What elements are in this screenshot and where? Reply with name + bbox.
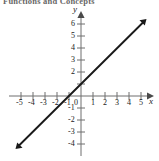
x-tick-label-5: 5 — [139, 99, 143, 107]
figure-container: Functions and Concepts — [0, 0, 159, 161]
x-tick-label-4: 4 — [127, 99, 131, 107]
y-tick-label-2: 2 — [71, 68, 75, 76]
x-tick-label--3: -3 — [40, 99, 47, 107]
y-tick-label-6: 6 — [71, 20, 75, 28]
y-tick-label-3: 3 — [71, 56, 75, 64]
y-tick-label-4: 4 — [71, 44, 75, 52]
y-axis-label: y — [73, 5, 77, 13]
x-tick-label--5: -5 — [16, 99, 23, 107]
x-tick-label-3: 3 — [115, 99, 119, 107]
y-tick-label--3: -3 — [68, 128, 75, 136]
y-tick-label-5: 5 — [71, 32, 75, 40]
x-tick-label--4: -4 — [28, 99, 35, 107]
x-tick-label--2: -2 — [52, 99, 59, 107]
y-tick-label--1: -1 — [68, 104, 75, 112]
x-axis-label: x — [149, 97, 153, 105]
x-tick-label-2: 2 — [103, 99, 107, 107]
x-tick-label-1: 1 — [91, 99, 95, 107]
y-tick-label--4: -4 — [68, 140, 75, 148]
y-tick-label--2: -2 — [68, 116, 75, 124]
coordinate-plane-graph — [0, 0, 159, 161]
y-axis-arrowhead — [77, 11, 84, 18]
